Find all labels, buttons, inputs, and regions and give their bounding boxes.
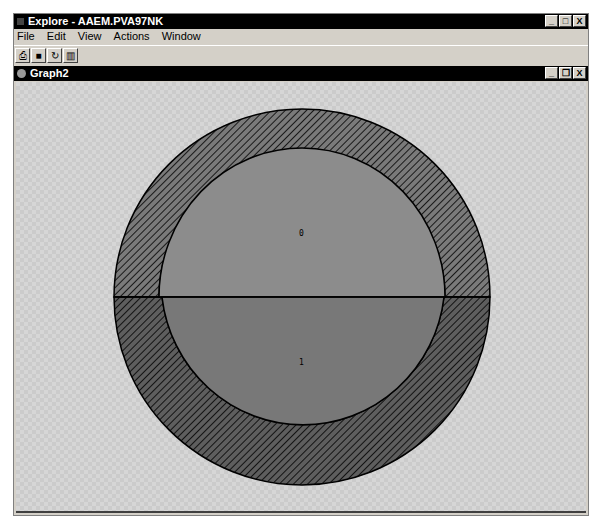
explore-window: Explore - AAEM.PVA97NK _ □ X File Edit V…: [13, 13, 589, 516]
menu-edit[interactable]: Edit: [47, 30, 66, 42]
refresh-button[interactable]: ↻: [47, 48, 62, 63]
toolbar: ⎙ ■ ↻ ▥: [14, 45, 588, 66]
bar-chart-icon: ▥: [66, 50, 75, 61]
save-button[interactable]: ■: [31, 48, 46, 63]
maximize-button[interactable]: □: [559, 15, 572, 27]
minimize-button[interactable]: _: [545, 15, 558, 27]
pie-chart: 0 1: [16, 82, 586, 522]
menu-view[interactable]: View: [78, 30, 102, 42]
child-close-button[interactable]: X: [573, 67, 586, 79]
printer-icon: ⎙: [19, 50, 27, 61]
child-restore-button[interactable]: ❐: [559, 67, 572, 79]
graph-window-icon: [17, 69, 26, 78]
window-title: Explore - AAEM.PVA97NK: [28, 15, 163, 27]
child-minimize-button[interactable]: _: [545, 67, 558, 79]
slice-label-0: 0: [299, 229, 304, 238]
menu-window[interactable]: Window: [162, 30, 201, 42]
chart-button[interactable]: ▥: [63, 48, 78, 63]
plot-area: 0 1: [16, 82, 586, 513]
close-button[interactable]: X: [573, 15, 586, 27]
menu-bar: File Edit View Actions Window: [14, 29, 588, 44]
print-button[interactable]: ⎙: [15, 48, 30, 63]
floppy-disk-icon: ■: [35, 50, 41, 61]
graph2-window: Graph2 _ ❐ X: [14, 66, 588, 515]
window-titlebar[interactable]: Explore - AAEM.PVA97NK _ □ X: [14, 14, 588, 29]
graph2-titlebar[interactable]: Graph2 _ ❐ X: [14, 66, 588, 81]
refresh-icon: ↻: [51, 50, 59, 61]
graph2-title: Graph2: [30, 67, 69, 79]
menu-actions[interactable]: Actions: [114, 30, 150, 42]
menu-file[interactable]: File: [17, 30, 35, 42]
slice-label-1: 1: [299, 358, 304, 367]
app-icon: [17, 18, 24, 25]
